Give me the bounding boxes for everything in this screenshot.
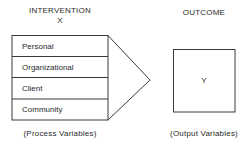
outcome-caption: (Output Variables): [160, 129, 248, 138]
intervention-item-organizational: Organizational: [22, 63, 74, 72]
intervention-item-personal: Personal: [22, 42, 54, 51]
intervention-item-community: Community: [22, 105, 62, 114]
intervention-symbol: X: [22, 16, 98, 25]
outcome-symbol: Y: [174, 76, 234, 85]
intervention-item-client: Client: [22, 84, 42, 93]
outcome-title: OUTCOME: [174, 8, 234, 17]
intervention-title: INTERVENTION: [22, 6, 98, 15]
intervention-caption: (Process Variables): [10, 129, 110, 138]
arrow-head: [108, 36, 150, 121]
